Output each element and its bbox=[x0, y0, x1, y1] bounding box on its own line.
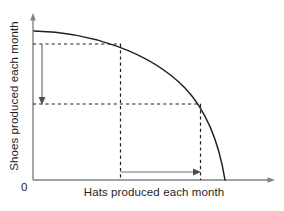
annotation-arrows bbox=[39, 44, 201, 175]
ppf-chart-canvas bbox=[0, 0, 284, 211]
chart-axes bbox=[30, 13, 275, 183]
x-axis-arrowhead bbox=[268, 177, 276, 183]
y-axis-label: Shoes produced each month bbox=[4, 6, 24, 186]
x-axis-label: Hats produced each month bbox=[33, 186, 275, 198]
origin-label: 0 bbox=[21, 180, 27, 194]
ppf-chart-figure: Shoes produced each month Hats produced … bbox=[0, 0, 284, 211]
hats-increase-arrowhead bbox=[193, 169, 201, 176]
guide-lines bbox=[33, 44, 201, 180]
y-axis-arrowhead bbox=[30, 13, 36, 21]
ppf-curve bbox=[34, 31, 225, 180]
